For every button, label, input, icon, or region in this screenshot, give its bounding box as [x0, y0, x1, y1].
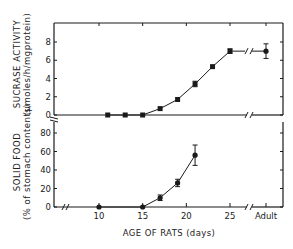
solid-food-line [99, 155, 195, 207]
x-tick-label: 20 [181, 211, 192, 221]
chart-figure: 0246802040608010152025Adult [0, 0, 293, 249]
data-point-circle [263, 49, 268, 54]
bottom-y-tick-label: 0 [46, 202, 51, 212]
top-y-tick-label: 6 [46, 55, 51, 65]
bottom-y-tick-label: 80 [40, 128, 51, 138]
bottom-y-axis-title: SOLID FOOD (% of stomach contents) [12, 102, 32, 222]
axis-break-icon [245, 204, 253, 210]
x-tick-label: 25 [225, 211, 236, 221]
top-y-tick-label: 4 [46, 74, 51, 84]
bottom-y-tick-label: 20 [40, 184, 51, 194]
data-point-square [105, 113, 110, 118]
bottom-y-axis-title-units: (% of stomach contents) [22, 102, 32, 222]
bottom-y-tick-label: 60 [40, 147, 51, 157]
data-point-square [158, 106, 163, 111]
axis-break-icon [245, 112, 253, 118]
bottom-y-tick-label: 40 [40, 165, 51, 175]
data-point-square [175, 97, 180, 102]
data-point-square [210, 64, 215, 69]
x-axis-title: AGE OF RATS (days) [0, 228, 293, 238]
x-tick-label: 10 [94, 211, 105, 221]
top-y-tick-label: 0 [46, 110, 51, 120]
data-point-square [140, 113, 145, 118]
data-point-square [193, 81, 198, 86]
data-point-circle [192, 153, 197, 158]
series-break-icon [245, 48, 253, 54]
data-point-circle [158, 195, 163, 200]
bottom-y-axis-title-main: SOLID FOOD [12, 102, 22, 222]
y-axis-break-icon [50, 117, 58, 122]
x-tick-label: 15 [137, 211, 148, 221]
top-y-tick-label: 8 [46, 37, 51, 47]
data-point-circle [175, 180, 180, 185]
data-point-square [228, 49, 233, 54]
x-tick-label: Adult [255, 211, 278, 221]
data-point-square [123, 113, 128, 118]
sucrase-line [108, 51, 230, 115]
top-y-tick-label: 2 [46, 92, 51, 102]
